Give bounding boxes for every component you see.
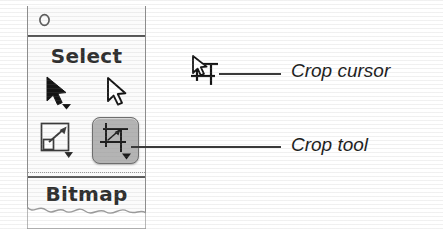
section-header-bitmap: Bitmap [28,178,145,206]
leader-line-crop-cursor [219,73,281,75]
tool-row-select-2 [28,116,145,164]
torn-scan-edge [27,203,146,229]
tool-palette: Select [27,6,146,229]
crop-cursor-icon [189,54,223,94]
tool-button-crop[interactable] [92,117,139,164]
scale-transform-icon [37,119,77,161]
tool-button-subselection[interactable] [92,69,139,116]
callout-label-crop-cursor: Crop cursor [291,60,390,82]
filled-arrow-cursor-icon [40,73,74,111]
palette-titlebar [28,6,145,37]
hollow-arrow-cursor-icon [101,74,131,110]
crop-tool-icon [97,120,135,160]
leader-line-crop-tool [131,146,281,148]
palette-divider-dotted [28,172,145,173]
tool-button-pointer[interactable] [34,69,81,116]
callout-label-crop-tool: Crop tool [291,134,368,156]
tool-button-scale[interactable] [34,117,81,164]
tool-row-select-1 [28,68,145,116]
circle-disclosure-icon[interactable] [38,13,51,27]
section-header-select: Select [28,37,145,68]
